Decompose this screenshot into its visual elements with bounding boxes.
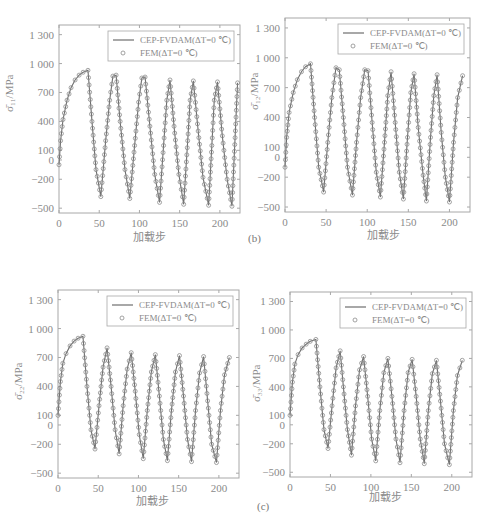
chart-panel-sigma33: 1 3001 0007004001000−200−500050100150200… (241, 262, 483, 524)
x-tick-label: 200 (212, 217, 229, 229)
legend-marker-label: FEM(ΔT=0 ℃) (140, 48, 198, 58)
figure-label-c: (c) (257, 500, 269, 512)
legend-line-label: CEP-FVDAM(ΔT=0 ℃) (140, 35, 231, 45)
legend: CEP-FVDAM(ΔT=0 ℃)FEM(ΔT=0 ℃) (108, 31, 234, 61)
chart-panel-sigma12: 1 3001 0007004001000−200−500050100150200… (241, 0, 483, 262)
x-tick-label: 200 (441, 216, 458, 228)
y-axis-label: σ̄₁₁/MPa (3, 75, 15, 112)
y-tick-label: 700 (264, 82, 281, 94)
y-tick-label: −200 (30, 438, 53, 450)
y-tick-label: 0 (48, 419, 54, 431)
y-tick-label: 1 300 (255, 22, 280, 34)
x-axis-label: 加载步 (369, 488, 402, 504)
y-tick-label: 1 300 (28, 294, 53, 306)
y-tick-label: 0 (280, 419, 286, 431)
legend-marker-label: FEM(ΔT=0 ℃) (370, 41, 428, 51)
x-tick-label: 0 (56, 217, 62, 229)
legend-line-label: CEP-FVDAM(ΔT=0 ℃) (372, 302, 463, 312)
legend-marker-label: FEM(ΔT=0 ℃) (372, 315, 430, 325)
fem-markers (288, 337, 464, 466)
fem-markers (56, 334, 231, 464)
x-tick-label: 50 (93, 482, 105, 494)
y-tick-label: 400 (38, 115, 55, 127)
plot-svg: 1 3001 0007004001000−200−500050100150200… (0, 0, 241, 262)
legend-line-label: CEP-FVDAM(ΔT=0 ℃) (139, 300, 230, 310)
y-tick-label: 0 (275, 151, 281, 163)
y-tick-label: −200 (257, 171, 280, 183)
y-tick-label: 1 300 (29, 29, 54, 41)
y-tick-label: 400 (264, 111, 281, 123)
y-axis-label: σ̄₁₂/MPa (248, 73, 260, 110)
x-tick-label: 0 (287, 481, 293, 493)
y-tick-label: 700 (37, 351, 54, 363)
y-tick-label: 700 (38, 86, 55, 98)
y-tick-label: −500 (257, 201, 280, 213)
x-axis-label: 加载步 (136, 492, 169, 508)
x-tick-label: 200 (444, 481, 461, 493)
y-tick-label: 1 000 (29, 58, 54, 70)
y-tick-label: 1 000 (260, 324, 285, 336)
legend: CEP-FVDAM(ΔT=0 ℃)FEM(ΔT=0 ℃) (340, 298, 466, 328)
plot-svg: 1 3001 0007004001000−200−500050100150200… (0, 262, 241, 524)
x-tick-label: 50 (94, 217, 106, 229)
y-tick-label: −200 (262, 438, 285, 450)
legend-line-label: CEP-FVDAM(ΔT=0 ℃) (370, 28, 461, 38)
y-tick-label: −500 (30, 467, 53, 479)
y-axis-label: σ̄₃₃/MPa (250, 365, 262, 402)
legend-marker-label: FEM(ΔT=0 ℃) (139, 313, 197, 323)
legend: CEP-FVDAM(ΔT=0 ℃)FEM(ΔT=0 ℃) (338, 24, 464, 54)
y-tick-label: −200 (31, 173, 54, 185)
x-axis-label: 加载步 (133, 228, 166, 244)
figure-label-b: (b) (248, 232, 261, 244)
fem-markers (283, 62, 465, 204)
x-tick-label: 150 (171, 217, 188, 229)
y-tick-label: 1 300 (260, 295, 285, 307)
plot-svg: 1 3001 0007004001000−200−500050100150200… (241, 0, 483, 262)
y-tick-label: 1 000 (28, 323, 53, 335)
x-tick-label: 50 (321, 216, 333, 228)
x-tick-label: 150 (403, 481, 420, 493)
y-axis-label: σ̄₂₂/MPa (12, 363, 24, 400)
x-tick-label: 0 (282, 216, 288, 228)
y-tick-label: 0 (49, 154, 55, 166)
chart-panel-sigma11: 1 3001 0007004001000−200−500050100150200… (0, 0, 241, 262)
x-axis-label: 加载步 (367, 226, 400, 242)
plot-svg: 1 3001 0007004001000−200−500050100150200… (241, 262, 483, 524)
y-tick-label: 400 (269, 381, 286, 393)
x-tick-label: 200 (211, 482, 228, 494)
y-tick-label: −500 (262, 466, 285, 478)
y-tick-label: 1 000 (255, 52, 280, 64)
x-tick-label: 150 (400, 216, 417, 228)
x-tick-label: 0 (55, 482, 61, 494)
y-tick-label: 700 (269, 352, 286, 364)
chart-panel-sigma22: 1 3001 0007004001000−200−500050100150200… (0, 262, 241, 524)
y-tick-label: 400 (37, 380, 54, 392)
x-tick-label: 150 (170, 482, 187, 494)
legend: CEP-FVDAM(ΔT=0 ℃)FEM(ΔT=0 ℃) (107, 296, 233, 326)
cep-fvdam-curve (58, 336, 229, 462)
y-tick-label: −500 (31, 202, 54, 214)
cep-fvdam-curve (285, 64, 463, 202)
x-tick-label: 50 (325, 481, 337, 493)
